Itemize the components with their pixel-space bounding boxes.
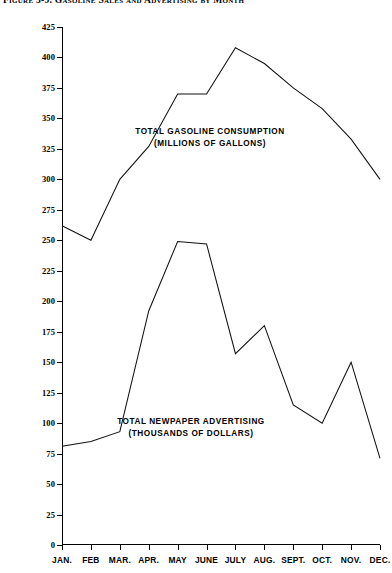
x-tick-mark [120, 545, 121, 550]
annotation-advertising-units: (THOUSANDS OF DOLLARS) [117, 428, 265, 440]
x-tick-mark [351, 545, 352, 550]
y-tick-label: 325 [42, 144, 55, 154]
x-tick-label: JAN. [52, 555, 72, 565]
x-tick-mark [235, 545, 236, 550]
x-tick-label: OCT. [312, 555, 332, 565]
x-tick-label: FEB [82, 555, 99, 565]
y-tick-label: 150 [42, 357, 55, 367]
x-tick-label: JULY [225, 555, 246, 565]
x-tick-label: APR. [138, 555, 159, 565]
x-tick-mark [149, 545, 150, 550]
x-tick-label: DEC. [370, 555, 391, 565]
series-layer [62, 27, 380, 545]
series-annotation-advertising: TOTAL NEWPAPER ADVERTISING (THOUSANDS OF… [117, 416, 265, 439]
x-tick-mark [264, 545, 265, 550]
annotation-advertising-title: TOTAL NEWPAPER ADVERTISING [117, 417, 265, 426]
x-tick-label: MAY [168, 555, 186, 565]
y-tick-label: 400 [42, 52, 55, 62]
x-tick-mark [322, 545, 323, 550]
y-tick-label: 225 [42, 266, 55, 276]
y-tick-label: 50 [46, 479, 55, 489]
annotation-gasoline-units: (MILLIONS OF GALLONS) [135, 138, 284, 150]
x-tick-mark [62, 545, 63, 550]
y-tick-label: 200 [42, 296, 55, 306]
y-tick-label: 250 [42, 235, 55, 245]
y-tick-label: 375 [42, 83, 55, 93]
chart-canvas: 0255075100125150175200225250275300325350… [0, 0, 392, 573]
x-tick-label: AUG. [253, 555, 275, 565]
y-tick-label: 100 [42, 418, 55, 428]
y-tick-label: 175 [42, 327, 55, 337]
y-tick-label: 25 [46, 510, 55, 520]
y-tick-label: 300 [42, 174, 55, 184]
x-tick-mark [380, 545, 381, 550]
series-annotation-gasoline: TOTAL GASOLINE CONSUMPTION (MILLIONS OF … [135, 126, 284, 149]
plot-region: 0255075100125150175200225250275300325350… [62, 27, 380, 545]
x-tick-mark [207, 545, 208, 550]
x-tick-label: NOV. [341, 555, 362, 565]
x-tick-label: JUNE [195, 555, 218, 565]
y-tick-label: 75 [46, 449, 55, 459]
y-tick-label: 125 [42, 388, 55, 398]
x-tick-mark [293, 545, 294, 550]
x-tick-mark [91, 545, 92, 550]
y-tick-label: 350 [42, 113, 55, 123]
y-tick-label: 425 [42, 22, 55, 32]
x-tick-mark [178, 545, 179, 550]
x-tick-label: SEPT. [281, 555, 305, 565]
y-tick-label: 0 [51, 540, 55, 550]
x-tick-label: MAR. [109, 555, 131, 565]
annotation-gasoline-title: TOTAL GASOLINE CONSUMPTION [135, 127, 284, 136]
y-tick-label: 275 [42, 205, 55, 215]
